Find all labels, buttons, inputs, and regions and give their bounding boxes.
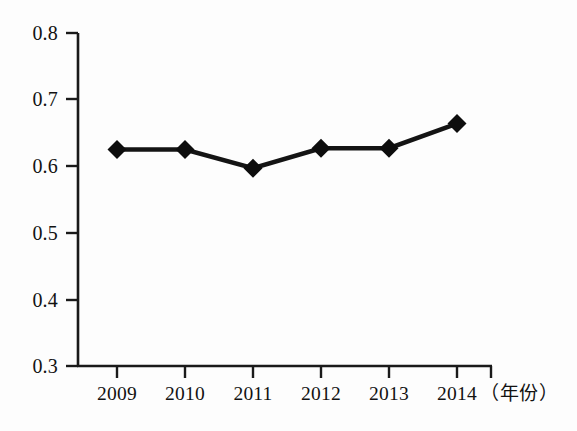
- x-tick-label-2013: 2013: [357, 384, 421, 404]
- data-point-marker: 2012: 0.627: [312, 139, 331, 158]
- series-line: [117, 124, 457, 169]
- data-point-marker: 2009: 0.625: [108, 140, 127, 159]
- data-point-marker: 2011: 0.597: [244, 159, 263, 178]
- data-point-marker: 2014: 0.664: [448, 114, 467, 133]
- y-tick-label-5: 0.3: [6, 356, 58, 376]
- x-tick-label-2011: 2011: [221, 384, 285, 404]
- data-point-marker: 2013: 0.627: [380, 139, 399, 158]
- x-tick-label-2010: 2010: [153, 384, 217, 404]
- plot-area: 2009: 0.6252010: 0.6252011: 0.5972012: 0…: [0, 0, 577, 431]
- y-tick-label-0: 0.8: [6, 23, 58, 43]
- y-tick-label-4: 0.4: [6, 290, 58, 310]
- x-axis-title: （年份）: [480, 383, 558, 405]
- line-chart: 2009: 0.6252010: 0.6252011: 0.5972012: 0…: [0, 0, 577, 431]
- y-tick-label-2: 0.6: [6, 156, 58, 176]
- data-series: 2009: 0.6252010: 0.6252011: 0.5972012: 0…: [108, 114, 467, 178]
- data-point-marker: 2010: 0.625: [176, 140, 195, 159]
- x-tick-label-2009: 2009: [85, 384, 149, 404]
- x-tick-label-2012: 2012: [289, 384, 353, 404]
- y-tick-label-1: 0.7: [6, 89, 58, 109]
- y-tick-label-3: 0.5: [6, 223, 58, 243]
